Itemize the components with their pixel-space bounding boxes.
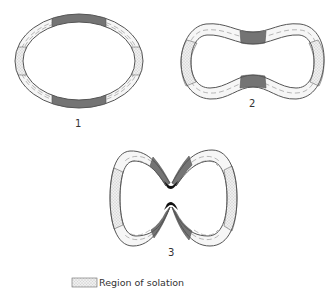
stage-3-label: 3 bbox=[168, 247, 174, 258]
solation-region-right bbox=[132, 47, 146, 75]
solation-region-left bbox=[12, 47, 26, 75]
stage-1-cell: 1 bbox=[12, 12, 146, 129]
pinch-tip-bottom bbox=[164, 202, 178, 210]
stage-1-label: 1 bbox=[75, 118, 81, 129]
legend-swatch-solation bbox=[72, 278, 97, 287]
stage-2-label: 2 bbox=[249, 98, 255, 109]
legend: Region of solation bbox=[72, 277, 184, 288]
stage-2-cell: 2 bbox=[181, 24, 324, 109]
legend-label-solation: Region of solation bbox=[99, 277, 184, 288]
contracting-band-top bbox=[240, 31, 266, 44]
contracting-band-lower-left bbox=[151, 207, 170, 238]
stage-3-cell: 3 bbox=[110, 150, 237, 258]
cell-division-diagram: 1 2 bbox=[0, 0, 332, 296]
contracting-band-upper-left bbox=[150, 157, 170, 186]
